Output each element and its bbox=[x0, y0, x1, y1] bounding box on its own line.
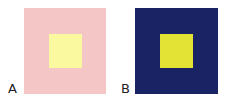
panel-label-a: A bbox=[8, 82, 17, 95]
panel-label-b: B bbox=[121, 82, 130, 95]
inner-square-a bbox=[49, 34, 82, 68]
inner-square-b bbox=[160, 34, 193, 68]
